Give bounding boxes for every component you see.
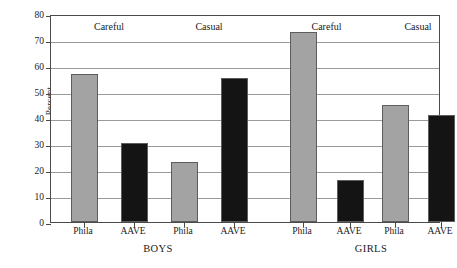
bar-boys-casual-phila	[171, 162, 198, 222]
x-tick-label-aave: AAVE	[427, 226, 452, 236]
bar-girls-careful-phila	[290, 32, 317, 222]
bar-girls-casual-aave	[428, 115, 455, 222]
y-tick-label: 70	[35, 37, 52, 47]
x-tick-label-phila: Phila	[292, 226, 312, 236]
group-label-boys: BOYS	[143, 243, 173, 254]
y-tick-label: 60	[35, 63, 52, 73]
gridline	[51, 68, 439, 69]
bar-girls-careful-aave	[337, 180, 364, 222]
group-label-girls: GIRLS	[355, 243, 387, 254]
y-tick-label: 10	[35, 193, 52, 203]
x-tick-label-aave: AAVE	[336, 226, 361, 236]
y-tick-label: 80	[35, 11, 52, 21]
y-tick-label: 40	[35, 115, 52, 125]
y-tick-label: 30	[35, 141, 52, 151]
x-tick-label-phila: Phila	[173, 226, 193, 236]
x-tick-label-aave: AAVE	[120, 226, 145, 236]
bar-boys-careful-phila	[71, 74, 98, 222]
bar-chart-figure: Percent 01020304050607080CarefulCasualCa…	[0, 0, 457, 268]
x-tick-label-phila: Phila	[384, 226, 404, 236]
bar-boys-careful-aave	[121, 143, 148, 222]
gridline	[51, 42, 439, 43]
x-tick-label-phila: Phila	[73, 226, 93, 236]
style-label-girls-casual: Casual	[404, 21, 431, 32]
x-tick-label-aave: AAVE	[220, 226, 245, 236]
y-tick-label: 0	[39, 219, 51, 229]
y-tick-label: 50	[35, 89, 52, 99]
bar-girls-casual-phila	[382, 105, 409, 222]
plot-area: 01020304050607080CarefulCasualCarefulCas…	[50, 15, 440, 223]
y-tick-label: 20	[35, 167, 52, 177]
bar-boys-casual-aave	[221, 78, 248, 222]
style-label-girls-careful: Careful	[312, 21, 342, 32]
style-label-boys-casual: Casual	[195, 21, 222, 32]
style-label-boys-careful: Careful	[94, 21, 124, 32]
